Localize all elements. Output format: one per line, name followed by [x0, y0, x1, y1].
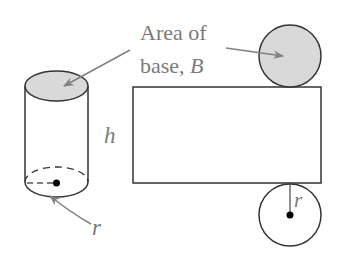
cylinder: [25, 71, 88, 197]
label-height: h: [104, 123, 116, 148]
label-base-var: B: [190, 53, 203, 78]
top-base-circle: [259, 25, 321, 87]
arrow-to-cylinder-base: [64, 50, 130, 86]
arrow-to-radius: [50, 196, 91, 224]
label-radius-net: r: [294, 188, 303, 212]
net-center-dot: [287, 212, 294, 219]
cylinder-top-base: [25, 71, 88, 101]
bottom-base: [259, 184, 321, 246]
label-base-B: base, B: [140, 53, 204, 78]
label-area-of: Area of: [140, 20, 207, 45]
cylinder-net-diagram: Area of base, B h r r: [0, 0, 343, 264]
label-radius-cylinder: r: [92, 215, 102, 240]
cylinder-center-dot: [53, 180, 60, 187]
lateral-surface-rectangle: [133, 87, 321, 183]
label-base-prefix: base,: [140, 53, 190, 78]
